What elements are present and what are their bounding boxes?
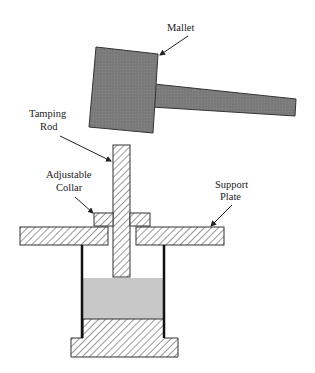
adjustable-collar-arrow	[75, 197, 93, 213]
mallet-head	[89, 47, 158, 133]
mallet-arrow	[160, 36, 188, 55]
tamping-diagram: Mallet Tamping Rod Adjustable Collar Sup…	[0, 0, 315, 373]
sample	[83, 278, 164, 319]
support-plate-arrow	[211, 205, 232, 226]
tamping-rod-label-line2: Rod	[40, 121, 58, 132]
mallet-label: Mallet	[167, 22, 194, 33]
adjustable-collar-label-line1: Adjustable	[46, 169, 92, 180]
mallet-handle	[152, 84, 296, 116]
tamping-rod-label-line1: Tamping	[29, 108, 67, 119]
adjustable-collar-label-line2: Collar	[56, 182, 83, 193]
adjustable-collar-left	[94, 213, 113, 226]
tamping-rod-arrow	[60, 136, 111, 161]
tamping-rod	[113, 145, 130, 277]
adjustable-collar-right	[130, 213, 150, 226]
base	[71, 319, 178, 357]
support-plate-right	[136, 227, 224, 245]
support-plate-left	[20, 227, 108, 245]
support-plate-label-line2: Plate	[220, 191, 241, 202]
support-plate-label-line1: Support	[215, 179, 248, 190]
